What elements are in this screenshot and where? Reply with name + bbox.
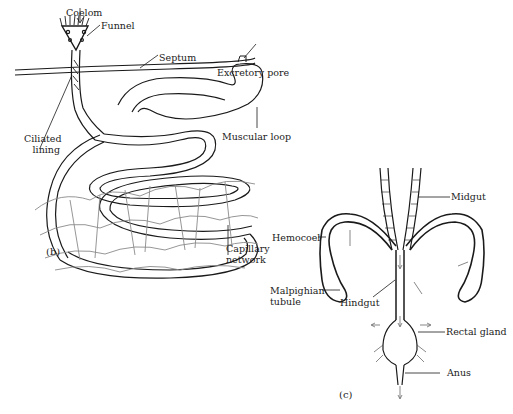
panel-tag-b: (b) (46, 246, 60, 257)
label-hindgut: Hindgut (340, 297, 380, 308)
label-funnel: Funnel (101, 20, 135, 31)
diagram-artwork (0, 0, 513, 414)
label-ciliated-lining: Ciliated lining (24, 133, 60, 155)
label-capillary-network-line2: network (226, 254, 270, 265)
label-malpighian-tubule: Malpighian tubule (270, 285, 325, 307)
label-capillary-network-line1: Capillary (226, 243, 270, 254)
label-malpighian-tubule-line1: Malpighian (270, 285, 325, 296)
label-hemocoel: Hemocoel (272, 232, 320, 243)
label-septum: Septum (159, 52, 196, 63)
label-anus: Anus (447, 367, 471, 378)
label-malpighian-tubule-line2: tubule (270, 296, 325, 307)
label-midgut: Midgut (451, 191, 486, 202)
label-coelom: Coelom (66, 7, 102, 18)
label-ciliated-lining-line2: lining (24, 144, 60, 155)
label-muscular-loop: Muscular loop (222, 131, 291, 142)
label-ciliated-lining-line1: Ciliated (24, 133, 60, 144)
label-excretory-pore: Excretory pore (217, 67, 289, 78)
panel-tag-c: (c) (339, 389, 352, 400)
label-rectal-gland: Rectal gland (446, 326, 507, 337)
label-capillary-network: Capillary network (226, 243, 270, 265)
